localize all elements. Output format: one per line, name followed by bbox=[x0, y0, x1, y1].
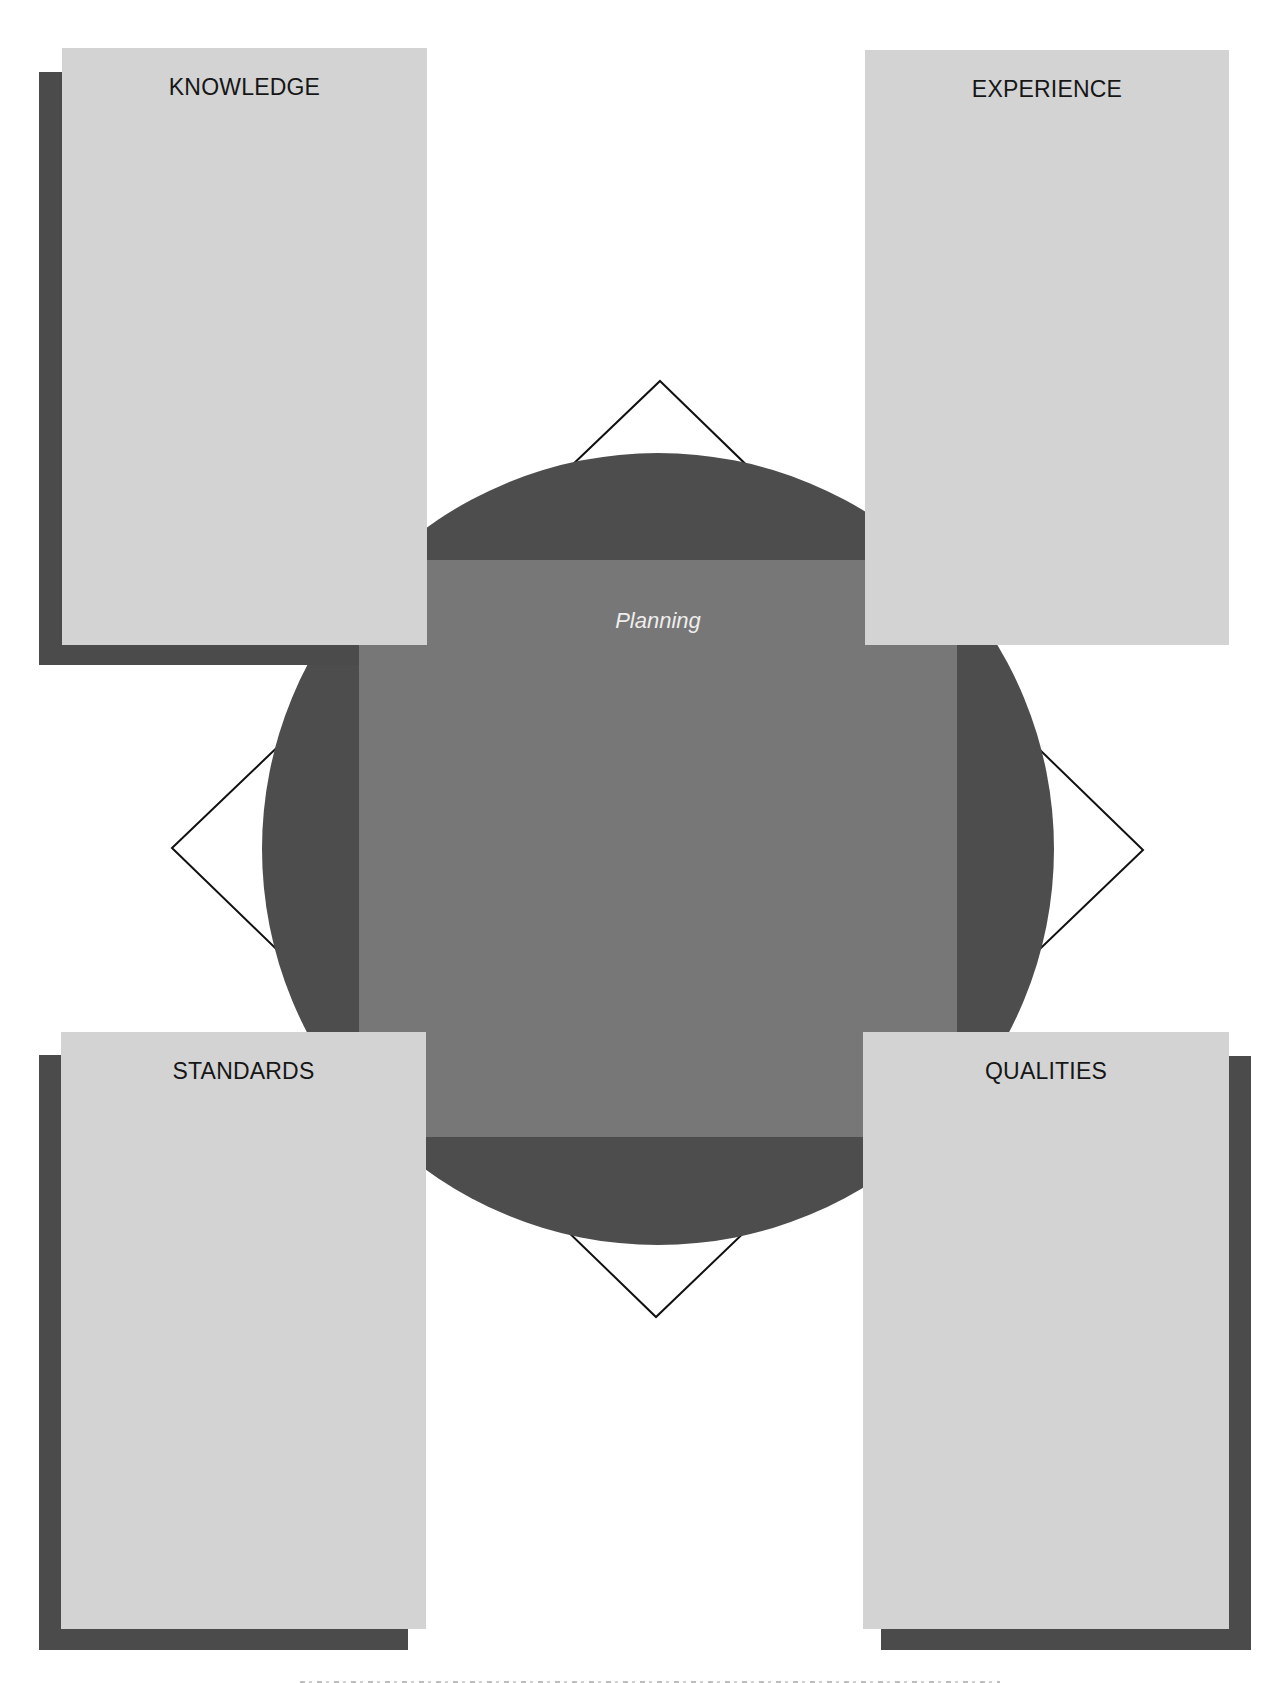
experience-title: EXPERIENCE bbox=[865, 76, 1229, 103]
qualities-title: QUALITIES bbox=[863, 1058, 1229, 1085]
standards-title: STANDARDS bbox=[61, 1058, 426, 1085]
knowledge-title: KNOWLEDGE bbox=[62, 74, 427, 101]
knowledge-panel: KNOWLEDGE bbox=[62, 48, 427, 645]
qualities-panel: QUALITIES bbox=[863, 1032, 1229, 1629]
standards-panel: STANDARDS bbox=[61, 1032, 426, 1629]
experience-panel: EXPERIENCE bbox=[865, 50, 1229, 645]
figure-caption-clipped bbox=[0, 1672, 1284, 1683]
